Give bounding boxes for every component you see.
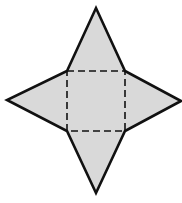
pyramid-net-diagram <box>0 0 182 203</box>
net-outline-shape <box>7 8 181 193</box>
